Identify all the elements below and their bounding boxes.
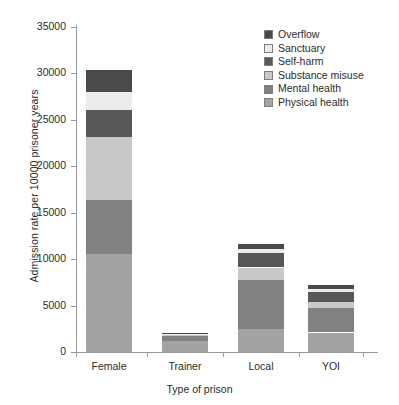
legend: OverflowSanctuarySelf-harmSubstance misu… <box>264 28 364 110</box>
y-tick-mark <box>71 213 76 214</box>
bar-segment-mental-health[interactable] <box>238 280 284 329</box>
legend-swatch-icon <box>264 57 273 66</box>
y-tick-mark <box>71 166 76 167</box>
legend-item[interactable]: Mental health <box>264 82 364 96</box>
bar-segment-physical-health[interactable] <box>86 254 132 352</box>
x-tick-mark <box>299 352 300 357</box>
y-tick-label: 35000 <box>8 20 66 32</box>
x-tick-mark <box>147 352 148 357</box>
bar-segment-physical-health[interactable] <box>308 333 354 353</box>
y-tick-mark <box>71 73 76 74</box>
stacked-bar-chart: Admission rate per 10000 prisoner years … <box>0 0 399 405</box>
y-tick-label: 15000 <box>8 206 66 218</box>
y-tick-mark <box>71 306 76 307</box>
legend-item[interactable]: Substance misuse <box>264 69 364 83</box>
bar-trainer[interactable] <box>162 0 208 405</box>
x-tick-mark <box>363 352 364 357</box>
y-axis-line <box>76 25 77 354</box>
y-tick-mark <box>71 27 76 28</box>
legend-swatch-icon <box>264 85 273 94</box>
legend-label: Substance misuse <box>278 69 364 83</box>
y-tick-label: 20000 <box>8 159 66 171</box>
legend-item[interactable]: Physical health <box>264 96 364 110</box>
legend-swatch-icon <box>264 98 273 107</box>
bar-segment-sanctuary[interactable] <box>238 249 284 253</box>
legend-label: Self-harm <box>278 55 324 69</box>
legend-label: Physical health <box>278 96 349 110</box>
legend-item[interactable]: Sanctuary <box>264 42 364 56</box>
y-tick-label: 5000 <box>8 299 66 311</box>
bar-segment-mental-health[interactable] <box>162 336 208 341</box>
x-tick-mark <box>76 352 77 357</box>
y-tick-label: 25000 <box>8 113 66 125</box>
bar-segment-self-harm[interactable] <box>308 292 354 302</box>
bar-segment-substance-misuse[interactable] <box>308 302 354 309</box>
legend-swatch-icon <box>264 30 273 39</box>
bar-segment-substance-misuse[interactable] <box>238 268 284 280</box>
y-tick-label: 10000 <box>8 252 66 264</box>
bar-segment-overflow[interactable] <box>86 70 132 92</box>
legend-label: Sanctuary <box>278 42 325 56</box>
bar-segment-overflow[interactable] <box>162 333 208 334</box>
y-tick-mark <box>71 259 76 260</box>
bar-segment-overflow[interactable] <box>308 285 354 289</box>
bar-female[interactable] <box>86 0 132 405</box>
bar-segment-sanctuary[interactable] <box>308 289 354 292</box>
y-tick-mark <box>71 120 76 121</box>
bar-segment-self-harm[interactable] <box>238 253 284 268</box>
legend-label: Mental health <box>278 82 341 96</box>
bar-segment-physical-health[interactable] <box>162 341 208 352</box>
bar-segment-physical-health[interactable] <box>238 329 284 352</box>
legend-item[interactable]: Overflow <box>264 28 364 42</box>
legend-item[interactable]: Self-harm <box>264 55 364 69</box>
bar-segment-mental-health[interactable] <box>86 200 132 254</box>
bar-segment-self-harm[interactable] <box>86 110 132 137</box>
y-axis-title: Admission rate per 10000 prisoner years <box>28 66 40 306</box>
bar-segment-mental-health[interactable] <box>308 308 354 332</box>
bar-segment-sanctuary[interactable] <box>86 92 132 110</box>
y-tick-label: 0 <box>8 345 66 357</box>
y-tick-label: 30000 <box>8 66 66 78</box>
bar-segment-substance-misuse[interactable] <box>86 137 132 200</box>
x-tick-mark <box>223 352 224 357</box>
legend-swatch-icon <box>264 71 273 80</box>
legend-swatch-icon <box>264 44 273 53</box>
bar-segment-overflow[interactable] <box>238 244 284 249</box>
legend-label: Overflow <box>278 28 319 42</box>
